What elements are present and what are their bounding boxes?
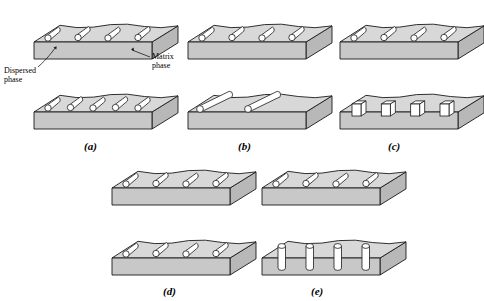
rod-cap-circle xyxy=(45,105,51,111)
rod-cap-circle xyxy=(135,105,141,111)
rod-cap-circle xyxy=(183,251,189,257)
cylinder-body xyxy=(362,246,370,270)
inclusion-rect-box xyxy=(381,101,395,116)
rod-cap-circle xyxy=(441,34,447,40)
rod-cap-circle xyxy=(213,180,219,186)
rod-cap-circle xyxy=(135,34,141,40)
inclusion-vertical-cylinder xyxy=(306,244,314,271)
box-front-face xyxy=(440,104,449,116)
block-front-face xyxy=(34,112,152,129)
rod-cap-circle xyxy=(112,104,118,110)
box-side-face xyxy=(361,101,366,116)
cylinder-top-ellipse xyxy=(278,244,286,249)
cylinder-body xyxy=(306,246,314,270)
rod-cap-circle xyxy=(381,34,387,40)
box-side-face xyxy=(420,101,425,116)
block-front-face xyxy=(112,188,230,205)
rod-cap-circle xyxy=(105,35,111,41)
rod-cap-circle xyxy=(333,181,339,187)
panel-label-e: (e) xyxy=(311,285,323,297)
rod-cap-circle xyxy=(351,35,357,41)
panel-c-bottom-block xyxy=(340,94,484,129)
panel-b-bottom-block xyxy=(188,91,332,129)
long-rod-cap-circle xyxy=(245,106,252,113)
rod-cap-circle xyxy=(123,251,129,257)
block-front-face xyxy=(188,42,306,59)
box-front-face xyxy=(352,104,361,116)
block-front-face xyxy=(112,258,230,275)
block-front-face xyxy=(262,188,380,205)
box-front-face xyxy=(411,104,420,116)
rod-cap-circle xyxy=(363,180,369,186)
cylinder-body xyxy=(278,246,286,270)
block-front-face xyxy=(188,112,306,129)
inclusion-rect-box xyxy=(352,101,366,116)
rod-cap-circle xyxy=(75,34,81,40)
box-side-face xyxy=(449,101,454,116)
panel-label-b: (b) xyxy=(238,140,251,152)
inclusion-vertical-cylinder xyxy=(334,244,342,271)
panel-c-top-block xyxy=(340,24,484,59)
panel-label-c: (c) xyxy=(388,140,400,152)
inclusion-rect-box xyxy=(411,101,425,116)
panel-d-top-block xyxy=(112,170,256,205)
block-front-face xyxy=(340,42,458,59)
cylinder-top-ellipse xyxy=(306,244,314,249)
long-rod-cap-circle xyxy=(197,106,204,113)
rod-cap-circle xyxy=(411,35,417,41)
rod-cap-circle xyxy=(303,180,309,186)
annotation-dispersed-phase: Dispersed phase xyxy=(4,66,36,84)
panel-b-top-block xyxy=(188,24,332,59)
inclusion-vertical-cylinder xyxy=(362,244,370,271)
inclusion-vertical-cylinder xyxy=(278,244,286,271)
rod-cap-circle xyxy=(289,34,295,40)
rod-cap-circle xyxy=(273,181,279,187)
rod-cap-circle xyxy=(153,180,159,186)
figure-canvas: Matrix phase Dispersed phase (a) (b) (c)… xyxy=(0,0,484,301)
box-side-face xyxy=(390,101,395,116)
rod-cap-circle xyxy=(199,35,205,41)
panel-label-d: (d) xyxy=(163,285,176,297)
annotation-matrix-phase: Matrix phase xyxy=(152,52,174,70)
cylinder-top-ellipse xyxy=(334,244,342,249)
rod-cap-circle xyxy=(229,34,235,40)
rod-cap-circle xyxy=(67,104,73,110)
rod-cap-circle xyxy=(213,250,219,256)
inclusion-rect-box xyxy=(440,101,454,116)
panel-d-bottom-block xyxy=(112,240,256,275)
box-front-face xyxy=(381,104,390,116)
rod-cap-circle xyxy=(183,181,189,187)
rod-cap-circle xyxy=(123,181,129,187)
rod-cap-circle xyxy=(153,250,159,256)
rod-cap-circle xyxy=(45,35,51,41)
panel-e-bottom-block xyxy=(262,240,406,275)
panel-label-a: (a) xyxy=(84,140,97,152)
panel-a-bottom-block xyxy=(34,94,178,129)
panel-e-top-block xyxy=(262,170,406,205)
rod-cap-circle xyxy=(90,105,96,111)
cylinder-top-ellipse xyxy=(362,244,370,249)
rod-cap-circle xyxy=(259,35,265,41)
cylinder-body xyxy=(334,246,342,270)
